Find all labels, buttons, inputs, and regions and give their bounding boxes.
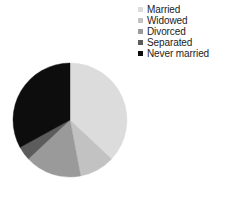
legend-item-label: Never married [147,48,209,59]
legend-swatch-icon [138,7,143,12]
legend-item[interactable]: Married [138,4,227,15]
legend-swatch-icon [138,51,143,56]
legend-swatch-icon [138,18,143,23]
legend-item[interactable]: Widowed [138,15,227,26]
legend-item[interactable]: Never married [138,48,227,59]
legend-item-label: Divorced [147,26,186,37]
legend-swatch-icon [138,29,143,34]
legend-item-label: Married [147,4,180,15]
legend-item-label: Separated [147,37,192,48]
legend-swatch-icon [138,40,143,45]
pie-plot-area [0,0,145,210]
chart-legend: MarriedWidowedDivorcedSeparatedNever mar… [138,4,227,59]
pie-svg [0,0,145,210]
legend-item-label: Widowed [147,15,187,26]
pie-slice-group [13,63,127,177]
legend-item[interactable]: Separated [138,37,227,48]
pie-chart: MarriedWidowedDivorcedSeparatedNever mar… [0,0,227,210]
legend-item[interactable]: Divorced [138,26,227,37]
